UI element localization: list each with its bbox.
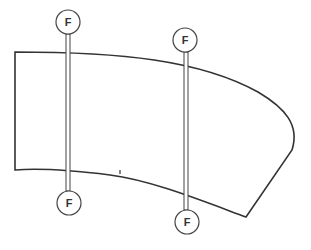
marker-label: F <box>65 16 72 28</box>
marker-rod-2-top: F <box>173 28 197 52</box>
marker-label: F <box>182 34 189 46</box>
rod-1 <box>66 34 70 191</box>
marker-rod-2-bottom: F <box>175 210 199 234</box>
marker-label: F <box>66 197 73 209</box>
marker-rod-1-top: F <box>56 10 80 34</box>
rod-2 <box>184 52 188 210</box>
panel-outline <box>15 52 294 217</box>
marker-label: F <box>184 216 191 228</box>
diagram-canvas: F F F F <box>0 0 311 250</box>
marker-rod-1-bottom: F <box>57 191 81 215</box>
